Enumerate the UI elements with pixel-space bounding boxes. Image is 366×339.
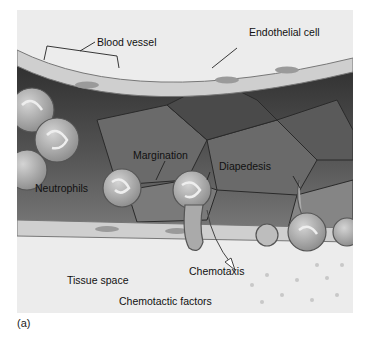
- label-endothelial-cell: Endothelial cell: [249, 27, 320, 38]
- leukocyte-migration-figure: Blood vessel Endothelial cell Marginatio…: [17, 10, 353, 313]
- blood-vessel-illustration: [17, 10, 353, 313]
- label-neutrophils: Neutrophils: [35, 183, 88, 194]
- label-chemotaxis: Chemotaxis: [189, 266, 244, 277]
- label-blood-vessel: Blood vessel: [97, 37, 157, 48]
- label-tissue-space: Tissue space: [67, 275, 128, 286]
- label-margination: Margination: [133, 150, 188, 161]
- label-diapedesis: Diapedesis: [219, 161, 271, 172]
- label-chemotactic-factors: Chemotactic factors: [119, 296, 212, 307]
- panel-label: (a): [17, 317, 30, 329]
